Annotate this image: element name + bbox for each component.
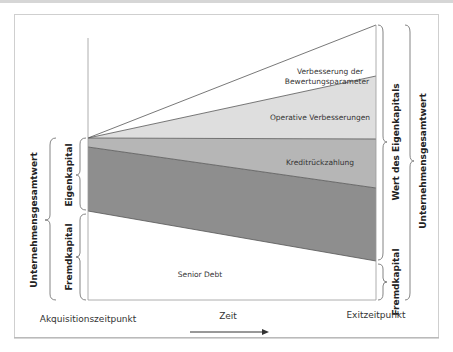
left-equity-brace [76,138,86,210]
label-right-enterprise: Unternehmensgesamtwert [418,93,428,229]
label-left-enterprise: Unternehmensgesamtwert [29,152,39,288]
label-acquisition-time: Akquisitionszeitpunkt [40,314,137,324]
label-senior-debt: Senior Debt [178,270,222,279]
diagram-svg: Verbesserung der Bewertungsparameter Ope… [0,0,453,352]
arrow-head-icon [262,329,269,335]
label-time: Zeit [219,311,237,321]
label-valuation-2: Bewertungsparameter [285,77,370,86]
label-valuation-1: Verbesserung der [297,67,364,76]
value-creation-diagram: Verbesserung der Bewertungsparameter Ope… [0,0,453,352]
label-right-debt: Fremdkapital [391,249,401,316]
label-right-equity-value: Wert des Eigenkapitals [391,83,401,200]
left-enterprise-brace [45,138,56,300]
right-equity-brace [378,25,387,260]
right-enterprise-brace [405,25,414,300]
label-operative: Operative Verbesserungen [270,113,370,122]
left-debt-brace [76,214,86,300]
right-debt-brace [378,264,387,300]
label-left-debt: Fremdkapital [64,224,74,291]
label-debt-repayment: Kreditrückzahlung [286,158,354,167]
label-left-equity: Eigenkapital [64,143,74,206]
label-exit-time: Exitzeitpunkt [346,310,406,320]
